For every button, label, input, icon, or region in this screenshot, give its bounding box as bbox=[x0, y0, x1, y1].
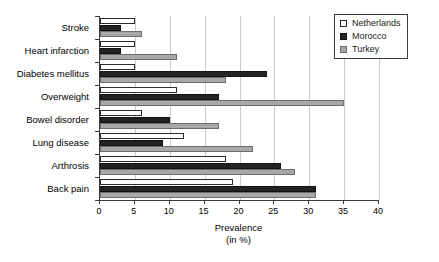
y-tick bbox=[95, 16, 99, 17]
legend-label: Netherlands bbox=[352, 19, 401, 28]
bar-group bbox=[100, 85, 378, 108]
category-label: Heart infarction bbox=[0, 39, 95, 62]
bar bbox=[100, 169, 295, 175]
x-tick bbox=[343, 200, 344, 204]
bar bbox=[100, 192, 316, 198]
bar-group bbox=[100, 131, 378, 154]
bar bbox=[100, 163, 281, 169]
bar bbox=[100, 41, 135, 47]
x-tick-label: 40 bbox=[373, 206, 383, 216]
bar bbox=[100, 54, 177, 60]
y-tick bbox=[95, 131, 99, 132]
bar bbox=[100, 71, 267, 77]
category-label: Diabetes mellitus bbox=[0, 62, 95, 85]
x-tick-label: 20 bbox=[233, 206, 243, 216]
category-label: Arthrosis bbox=[0, 154, 95, 177]
x-tick-label: 35 bbox=[338, 206, 348, 216]
bar bbox=[100, 18, 135, 24]
x-axis-title-line2: (in %) bbox=[99, 234, 378, 246]
bar-group bbox=[100, 108, 378, 131]
x-tick bbox=[378, 200, 379, 204]
y-tick bbox=[95, 154, 99, 155]
bar bbox=[100, 94, 219, 100]
bar bbox=[100, 156, 226, 162]
x-axis-title-line1: Prevalence bbox=[99, 222, 378, 234]
bar bbox=[100, 110, 142, 116]
legend-item: Turkey bbox=[340, 45, 401, 54]
x-tick bbox=[273, 200, 274, 204]
category-axis: StrokeHeart infarctionDiabetes mellitusO… bbox=[0, 16, 95, 200]
bar-group bbox=[100, 62, 378, 85]
x-tick-label: 5 bbox=[131, 206, 136, 216]
category-label: Bowel disorder bbox=[0, 108, 95, 131]
category-label: Lung disease bbox=[0, 131, 95, 154]
bar bbox=[100, 123, 219, 129]
bar-group bbox=[100, 154, 378, 177]
legend-swatch-icon bbox=[340, 20, 347, 27]
bar bbox=[100, 87, 177, 93]
bar bbox=[100, 100, 344, 106]
bar bbox=[100, 146, 253, 152]
bar bbox=[100, 25, 121, 31]
legend-item: Netherlands bbox=[340, 19, 401, 28]
x-tick bbox=[239, 200, 240, 204]
y-tick bbox=[95, 85, 99, 86]
bar-group bbox=[100, 177, 378, 200]
y-tick bbox=[95, 62, 99, 63]
legend-label: Morocco bbox=[352, 32, 387, 41]
bar bbox=[100, 31, 142, 37]
y-tick bbox=[95, 177, 99, 178]
bar bbox=[100, 186, 316, 192]
legend-swatch-icon bbox=[340, 33, 347, 40]
x-tick bbox=[308, 200, 309, 204]
y-tick bbox=[95, 39, 99, 40]
chart-legend: NetherlandsMoroccoTurkey bbox=[334, 14, 408, 59]
bar bbox=[100, 140, 163, 146]
category-label: Back pain bbox=[0, 177, 95, 200]
y-tick bbox=[95, 200, 99, 201]
category-label: Overweight bbox=[0, 85, 95, 108]
bar bbox=[100, 133, 184, 139]
prevalence-bar-chart: StrokeHeart infarctionDiabetes mellitusO… bbox=[0, 0, 439, 262]
x-tick-label: 0 bbox=[96, 206, 101, 216]
legend-item: Morocco bbox=[340, 32, 401, 41]
x-tick bbox=[204, 200, 205, 204]
bar bbox=[100, 77, 226, 83]
x-tick bbox=[169, 200, 170, 204]
x-tick bbox=[134, 200, 135, 204]
x-tick-label: 25 bbox=[268, 206, 278, 216]
bar bbox=[100, 48, 121, 54]
legend-swatch-icon bbox=[340, 46, 347, 53]
y-tick bbox=[95, 108, 99, 109]
category-label: Stroke bbox=[0, 16, 95, 39]
bar bbox=[100, 117, 170, 123]
x-axis-title: Prevalence (in %) bbox=[99, 222, 378, 246]
x-tick-label: 10 bbox=[164, 206, 174, 216]
bar bbox=[100, 179, 233, 185]
x-tick-label: 30 bbox=[303, 206, 313, 216]
legend-label: Turkey bbox=[352, 45, 379, 54]
bar bbox=[100, 64, 135, 70]
x-tick-label: 15 bbox=[199, 206, 209, 216]
x-tick bbox=[99, 200, 100, 204]
